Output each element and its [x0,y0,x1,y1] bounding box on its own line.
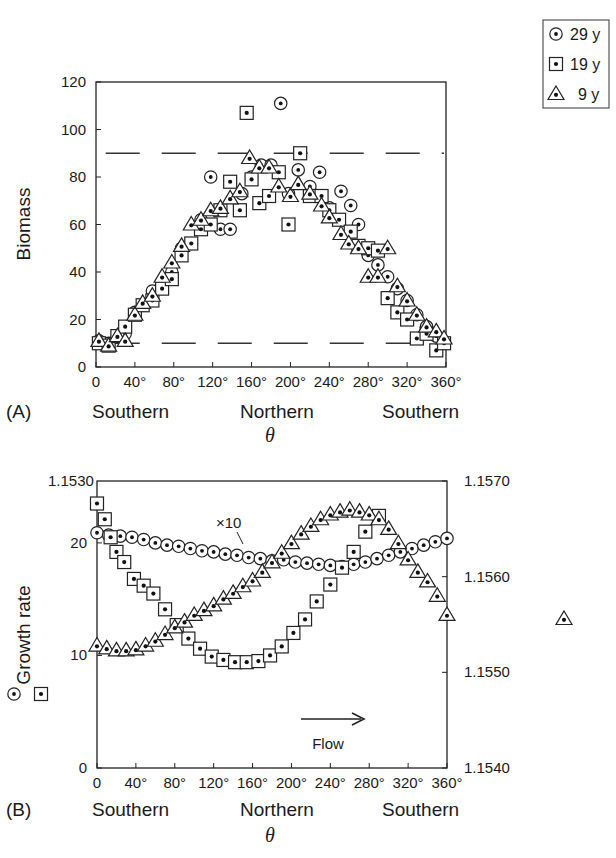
data-point [359,525,372,538]
data-point [91,497,104,510]
data-point [119,320,132,333]
data-point [149,537,161,549]
data-point [292,164,304,176]
circle-dot-marker-icon [550,28,562,40]
region-label-northern: Northern [240,799,314,820]
x-axis-title-b: θ [265,824,275,846]
data-point [252,655,265,668]
x-tick-label: 120° [198,774,229,791]
panel-b: 01020 1.15701.15601.15501.1540 040°80°12… [6,472,572,846]
data-point [345,199,357,211]
data-point [104,531,117,544]
data-point [312,558,324,570]
data-point [282,218,295,231]
plot-frame-a [96,82,446,367]
data-point [287,626,300,639]
x-axis-a: 040°80°120°160°200°240°280°320°360° [92,362,462,390]
y-axis-title-a: Biomass [13,188,34,261]
x-axis-title-a: θ [265,424,275,446]
y-tick-label: 20 [69,311,86,328]
x-tick-label: 240° [315,774,346,791]
data-point [161,539,173,551]
flow-label: Flow [312,735,344,752]
y-axis-series-key [8,688,48,701]
data-point [219,548,231,560]
y-tick-label-right: 1.1570 [464,472,510,489]
y-tick-label: 0 [79,759,87,776]
data-point [233,204,246,217]
figure: 29 y 19 y 9 y 020406080100120 040°80°120… [0,0,616,858]
legend: 29 y 19 y 9 y [543,20,609,108]
square-dot-marker-icon [550,58,563,71]
data-point [147,587,160,600]
y-tick-label: 20 [70,534,87,551]
y-tick-label: 0 [78,358,86,375]
data-point [359,556,371,568]
flow-arrow-icon [301,713,364,725]
region-label-southern-right: Southern [382,799,459,820]
legend-item-19y: 19 y [550,56,601,73]
data-point [245,173,258,186]
data-point [205,171,217,183]
x-tick-label: 40° [124,373,147,390]
data-point [231,549,243,561]
x-tick-label: 280° [353,373,384,390]
x-tick-label: 80° [162,373,185,390]
x-tick-label: 80° [163,774,186,791]
data-point [410,564,426,578]
data-point [324,559,336,571]
data-point [441,532,453,544]
data-point [91,527,103,539]
x-tick-label: 320° [393,774,424,791]
y-tick-label: 10 [70,646,87,663]
data-point [182,632,195,645]
data-points-a [91,97,452,357]
data-point [335,185,347,197]
y-tick-label: 120 [61,73,86,90]
x-tick-label: 360° [430,373,461,390]
x-tick-label: 160° [236,373,267,390]
data-point [310,595,323,608]
data-point [275,97,287,109]
data-point [439,607,455,621]
data-point [417,539,429,551]
panel-a: 020406080100120 040°80°120°160°200°240°2… [6,73,462,446]
x-tick-label: 280° [354,774,385,791]
region-label-southern-left: Southern [92,401,169,422]
data-point [324,578,337,591]
data-point [429,536,441,548]
data-point [196,545,208,557]
data-point [207,546,219,558]
x-tick-label: 0 [93,774,101,791]
data-point [229,656,242,669]
data-point [390,535,406,549]
data-point [264,649,277,662]
y-axis-a: 020406080100120 [61,73,101,375]
data-point [224,223,236,235]
data-point [118,556,131,569]
data-point [371,552,383,564]
y-axis-title-b: Growth rate [13,585,34,684]
data-point [275,640,288,653]
x-tick-label: 360° [431,774,462,791]
data-point [194,642,207,655]
data-point [159,603,172,616]
data-point [242,551,254,563]
data-point [294,147,307,160]
x-axis-b: 040°80°120°160°200°240°280°320°360° [93,763,463,791]
y-axis-b-right: 1.15701.15601.15501.1540 [442,472,510,776]
panel-tag-a: (A) [6,401,31,422]
data-point [271,179,287,193]
x-tick-label: 160° [237,774,268,791]
left-axis-top-label: 1.1530 [48,472,94,489]
data-point [217,653,230,666]
annotation-leader-line [237,532,243,544]
plot-frame-b [97,481,447,768]
data-point [98,513,111,526]
data-point [224,175,237,188]
data-point [347,558,359,570]
x-tick-label: 0 [92,373,100,390]
data-point [289,556,301,568]
legend-label: 19 y [570,56,600,73]
data-point [290,176,306,190]
